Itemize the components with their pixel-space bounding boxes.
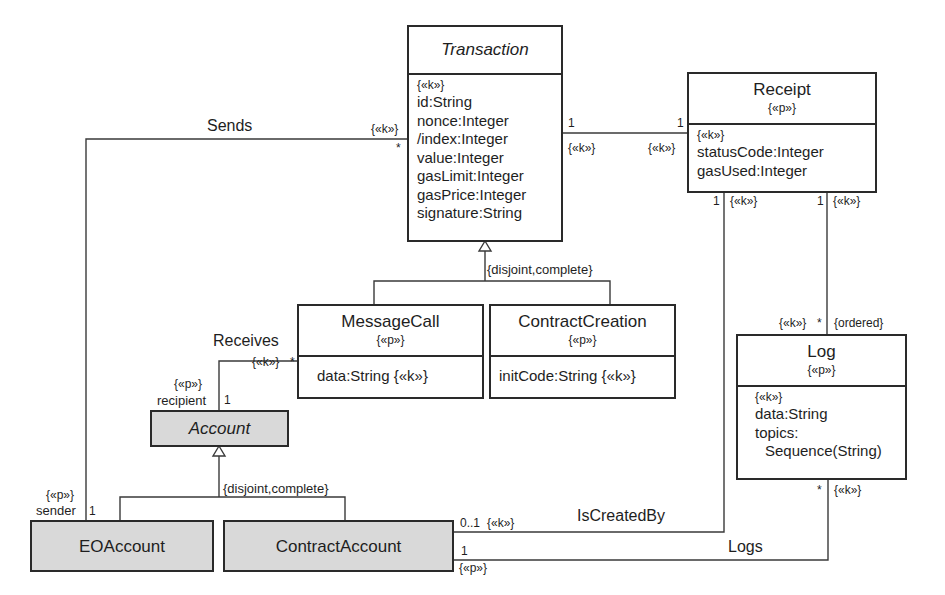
class-name: Transaction <box>409 40 561 60</box>
attribute: /index:Integer <box>417 130 553 149</box>
icb-contract-account-stereotype: {«k»} <box>487 516 514 530</box>
class-eo-account: EOAccount <box>30 520 214 572</box>
icb-contract-account-multiplicity: 0..1 <box>460 516 480 530</box>
class-contract-account: ContractAccount <box>223 520 454 572</box>
attribute: data:String {«k»} <box>317 367 474 386</box>
receives-recipient-role: recipient <box>157 393 206 408</box>
class-stereotype: {«p»} <box>299 333 482 347</box>
class-stereotype: {«p»} <box>491 333 674 347</box>
tr-receipt-multiplicity: 1 <box>677 116 684 130</box>
attribute: gasLimit:Integer <box>417 167 553 186</box>
icb-receipt-stereotype: {«k»} <box>730 194 757 208</box>
tr-receipt-stereotype: {«k»} <box>648 141 675 155</box>
rl-log-multiplicity: * <box>817 316 822 330</box>
attribute: statusCode:Integer <box>697 143 867 162</box>
attribute: value:Integer <box>417 149 553 168</box>
key-stereotype: {«k»} <box>755 390 897 405</box>
sends-transaction-multiplicity: * <box>396 141 401 155</box>
attribute: data:String <box>755 405 897 424</box>
attribute-list: {«k»} statusCode:Integer gasUsed:Integer <box>689 125 875 183</box>
logs-log-multiplicity: * <box>817 483 822 497</box>
icb-receipt-multiplicity: 1 <box>713 194 720 208</box>
tr-transaction-multiplicity: 1 <box>568 116 575 130</box>
receives-messagecall-stereotype: {«k»} <box>252 355 279 369</box>
attribute: initCode:String {«k»} <box>499 367 666 386</box>
class-name: Receipt <box>689 80 875 100</box>
receives-association-name: Receives <box>213 332 279 350</box>
account-generalization-branch <box>120 497 345 520</box>
attribute-list: {«k»} data:String topics: Sequence(Strin… <box>738 387 905 464</box>
class-name: ContractAccount <box>225 537 452 557</box>
class-account: Account <box>150 410 289 447</box>
class-name: EOAccount <box>32 537 212 557</box>
sends-association-name: Sends <box>207 117 252 135</box>
attribute: Sequence(String) <box>755 442 897 461</box>
key-stereotype: {«k»} <box>697 128 867 143</box>
sends-sender-role: sender <box>36 503 76 518</box>
receives-recipient-multiplicity: 1 <box>224 393 231 407</box>
logs-contract-account-stereotype: {«p»} <box>459 561 487 575</box>
tr-transaction-stereotype: {«k»} <box>568 141 595 155</box>
sends-transaction-stereotype: {«k»} <box>371 122 398 136</box>
logs-contract-account-multiplicity: 1 <box>461 544 468 558</box>
attribute: topics: <box>755 424 897 443</box>
sends-sender-stereotype: {«p»} <box>46 488 74 502</box>
key-stereotype: {«k»} <box>417 78 553 93</box>
attribute: gasUsed:Integer <box>697 162 867 181</box>
class-message-call: MessageCall {«p»} data:String {«k»} <box>297 304 484 399</box>
class-log: Log {«p»} {«k»} data:String topics: Sequ… <box>736 334 907 480</box>
class-transaction: Transaction {«k»} id:String nonce:Intege… <box>407 25 563 242</box>
transaction-generalization-arrowhead <box>479 241 491 251</box>
receives-messagecall-multiplicity: * <box>290 355 295 369</box>
attribute-list: initCode:String {«k»} <box>491 357 674 389</box>
attribute-list: {«k»} id:String nonce:Integer /index:Int… <box>409 75 561 226</box>
receives-recipient-stereotype: {«p»} <box>174 377 202 391</box>
attribute: signature:String <box>417 204 553 223</box>
logs-log-stereotype: {«k»} <box>834 483 861 497</box>
is-created-by-association-name: IsCreatedBy <box>577 507 665 525</box>
account-generalization-arrowhead <box>213 446 225 456</box>
attribute: id:String <box>417 93 553 112</box>
attribute: gasPrice:Integer <box>417 186 553 205</box>
account-generalization-constraint: {disjoint,complete} <box>223 481 329 496</box>
class-stereotype: {«p»} <box>689 101 875 115</box>
class-receipt: Receipt {«p»} {«k»} statusCode:Integer g… <box>687 72 877 193</box>
class-name: MessageCall <box>299 312 482 332</box>
transaction-generalization-constraint: {disjoint,complete} <box>487 262 593 277</box>
class-name: Account <box>152 419 287 439</box>
rl-receipt-stereotype: {«k»} <box>833 194 860 208</box>
logs-association-name: Logs <box>728 538 763 556</box>
attribute-list: data:String {«k»} <box>299 357 482 389</box>
class-name: Log <box>738 342 905 362</box>
rl-log-constraint: {ordered} <box>834 316 883 330</box>
rl-log-stereotype: {«k»} <box>779 316 806 330</box>
rl-receipt-multiplicity: 1 <box>817 194 824 208</box>
class-contract-creation: ContractCreation {«p»} initCode:String {… <box>489 304 676 399</box>
sends-sender-multiplicity: 1 <box>89 504 96 518</box>
class-name: ContractCreation <box>491 312 674 332</box>
transaction-generalization-branch <box>374 281 610 304</box>
attribute: nonce:Integer <box>417 112 553 131</box>
class-stereotype: {«p»} <box>738 363 905 377</box>
